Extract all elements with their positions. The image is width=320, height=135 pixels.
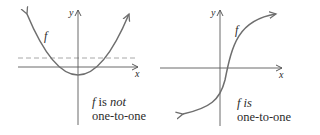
- left-caption-is: is: [95, 95, 110, 109]
- right-curve-label: f: [235, 23, 238, 38]
- right-caption-is: is: [240, 96, 251, 110]
- left-x-axis-label: x: [135, 68, 139, 79]
- left-caption-not: not: [110, 95, 126, 109]
- left-caption: f is not one-to-one: [92, 95, 146, 123]
- left-caption-line2: one-to-one: [92, 109, 146, 123]
- right-y-axis-label: y: [211, 7, 215, 18]
- right-caption: f is one-to-one: [237, 96, 291, 124]
- left-curve-label: f: [44, 29, 47, 44]
- right-caption-line2: one-to-one: [237, 110, 291, 124]
- right-x-axis-label: x: [279, 69, 283, 80]
- left-y-axis-label: y: [69, 7, 73, 18]
